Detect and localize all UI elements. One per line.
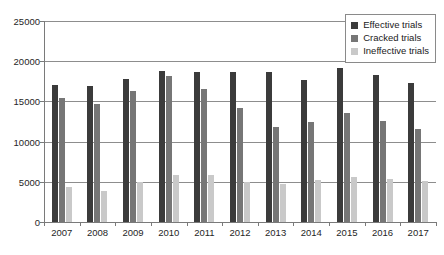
x-axis-tick-mark: [187, 222, 188, 226]
bar-2014-series-0: [301, 80, 307, 222]
legend-item-2[interactable]: Ineffective trials: [351, 45, 429, 57]
x-axis-tick-mark: [115, 222, 116, 226]
bar-2009-series-2: [137, 182, 143, 222]
bar-2015-series-0: [337, 68, 343, 222]
bar-2011-series-0: [194, 72, 200, 222]
legend-swatch-icon: [351, 35, 358, 42]
x-axis-tick-mark: [365, 222, 366, 226]
bar-2009-series-1: [130, 91, 136, 222]
bar-2014-series-2: [315, 180, 321, 222]
bar-group-2010: [159, 21, 179, 222]
bar-2016-series-2: [387, 179, 393, 222]
x-axis-label-2014: 2014: [291, 228, 331, 238]
legend-label: Effective trials: [363, 20, 422, 30]
bar-2007-series-0: [52, 85, 58, 222]
bar-2015-series-1: [344, 113, 350, 222]
bar-2011-series-2: [208, 175, 214, 222]
x-axis-tick-mark: [44, 222, 45, 226]
y-axis-tick-label: 5000: [2, 177, 40, 187]
x-axis-label-2009: 2009: [113, 228, 153, 238]
bar-2007-series-2: [66, 187, 72, 222]
legend-item-0[interactable]: Effective trials: [351, 19, 429, 31]
bar-2011-series-1: [201, 89, 207, 222]
x-axis-label-2017: 2017: [398, 228, 438, 238]
x-axis-label-2016: 2016: [363, 228, 403, 238]
y-axis-tick-label: 10000: [2, 137, 40, 147]
x-axis-tick-mark: [80, 222, 81, 226]
legend-swatch-icon: [351, 22, 358, 29]
legend-label: Cracked trials: [363, 33, 421, 43]
x-axis-tick-mark: [329, 222, 330, 226]
bar-2009-series-0: [123, 79, 129, 222]
bar-group-2014: [301, 21, 321, 222]
x-axis-label-2013: 2013: [256, 228, 296, 238]
bar-2012-series-2: [244, 182, 250, 222]
legend-swatch-icon: [351, 48, 358, 55]
x-axis-tick-mark: [151, 222, 152, 226]
bar-2016-series-1: [380, 121, 386, 222]
x-axis-tick-mark: [258, 222, 259, 226]
bar-group-2009: [123, 21, 143, 222]
legend-label: Ineffective trials: [363, 46, 429, 56]
bar-group-2011: [194, 21, 214, 222]
x-axis-line: [44, 222, 436, 223]
bar-2008-series-1: [94, 104, 100, 222]
y-axis-tick-label: 15000: [2, 97, 40, 107]
bar-2013-series-1: [273, 127, 279, 222]
bar-2014-series-1: [308, 122, 314, 222]
bar-2012-series-0: [230, 72, 236, 222]
y-axis-tick-label: 25000: [2, 17, 40, 27]
x-axis-tick-mark: [400, 222, 401, 226]
bar-2010-series-0: [159, 71, 165, 222]
legend-item-1[interactable]: Cracked trials: [351, 32, 429, 44]
bar-2008-series-2: [101, 191, 107, 222]
bar-2017-series-1: [415, 129, 421, 222]
bar-2008-series-0: [87, 86, 93, 222]
bar-group-2008: [87, 21, 107, 222]
y-axis-tick-label: 0: [2, 218, 40, 228]
bar-chart: 0500010000150002000025000 20072008200920…: [0, 0, 444, 255]
bar-2012-series-1: [237, 108, 243, 222]
bar-group-2013: [266, 21, 286, 222]
bar-2017-series-2: [422, 181, 428, 222]
x-axis-tick-mark: [293, 222, 294, 226]
bar-2007-series-1: [59, 98, 65, 222]
bar-group-2007: [52, 21, 72, 222]
x-axis-label-2007: 2007: [42, 228, 82, 238]
bar-2016-series-0: [373, 75, 379, 222]
bar-2010-series-1: [166, 76, 172, 222]
x-axis-label-2008: 2008: [77, 228, 117, 238]
x-axis-label-2012: 2012: [220, 228, 260, 238]
bar-2017-series-0: [408, 83, 414, 222]
x-axis-tick-mark: [436, 222, 437, 226]
x-axis-label-2011: 2011: [184, 228, 224, 238]
x-axis-label-2010: 2010: [149, 228, 189, 238]
bar-group-2012: [230, 21, 250, 222]
y-axis-tick-label: 20000: [2, 57, 40, 67]
x-axis-label-2015: 2015: [327, 228, 367, 238]
chart-legend: Effective trialsCracked trialsIneffectiv…: [345, 14, 436, 63]
bar-2013-series-2: [280, 184, 286, 222]
bar-2015-series-2: [351, 177, 357, 222]
bar-2010-series-2: [173, 175, 179, 222]
x-axis-tick-mark: [222, 222, 223, 226]
bar-2013-series-0: [266, 72, 272, 222]
